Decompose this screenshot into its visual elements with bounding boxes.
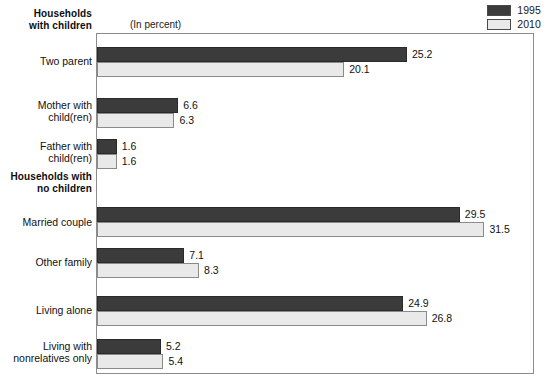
section-header-households-with-no-children: Households with no children (0, 171, 92, 194)
bar-value-label: 24.9 (403, 296, 428, 311)
category-label: Two parent (0, 55, 92, 67)
bar-1995 (97, 98, 178, 113)
bar-1995 (97, 207, 460, 222)
bar-value-label: 1.6 (117, 154, 137, 169)
bar-1995 (97, 47, 407, 62)
bar-2010 (97, 222, 484, 237)
bar-value-label: 31.5 (484, 222, 509, 237)
bar-1995 (97, 139, 117, 154)
bar-chart: 1995 2010 Households with children House… (0, 0, 553, 388)
legend-swatch-2010 (487, 19, 511, 30)
legend-item-1995: 1995 (487, 4, 541, 16)
bar-value-label: 20.1 (344, 62, 369, 77)
legend-label-1995: 1995 (517, 5, 541, 16)
legend-label-2010: 2010 (517, 19, 541, 30)
chart-legend: 1995 2010 (487, 4, 541, 30)
legend-swatch-1995 (487, 5, 511, 16)
category-label: Mother with child(ren) (0, 99, 92, 123)
bar-value-label: 7.1 (184, 248, 204, 263)
category-label: Father with child(ren) (0, 140, 92, 164)
bar-2010 (97, 154, 117, 169)
bar-value-label: 6.6 (178, 98, 198, 113)
bar-value-label: 25.2 (407, 47, 432, 62)
legend-item-2010: 2010 (487, 18, 541, 30)
category-label: Married couple (0, 216, 92, 228)
bar-2010 (97, 62, 344, 77)
category-label: Other family (0, 256, 92, 268)
bar-1995 (97, 339, 161, 354)
bar-2010 (97, 311, 427, 326)
bar-value-label: 8.3 (199, 263, 219, 278)
category-label: Living with nonrelatives only (0, 340, 92, 364)
bar-value-label: 29.5 (460, 207, 485, 222)
category-label: Living alone (0, 304, 92, 316)
bar-1995 (97, 296, 403, 311)
bar-1995 (97, 248, 184, 263)
units-note: (In percent) (130, 19, 181, 31)
bar-value-label: 6.3 (174, 113, 194, 128)
bar-value-label: 5.2 (161, 339, 181, 354)
bar-2010 (97, 263, 199, 278)
bar-2010 (97, 113, 174, 128)
section-header-households-with-children: Households with children (0, 8, 92, 31)
bar-value-label: 26.8 (427, 311, 452, 326)
bar-value-label: 5.4 (163, 354, 183, 369)
bar-2010 (97, 354, 163, 369)
bar-value-label: 1.6 (117, 139, 137, 154)
